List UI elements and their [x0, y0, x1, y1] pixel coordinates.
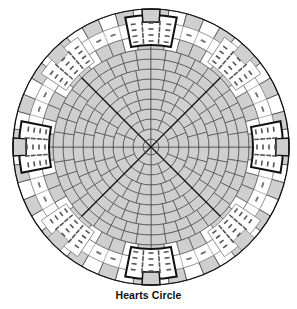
grid-cell — [103, 147, 114, 159]
figure-caption: Hearts Circle — [0, 289, 297, 301]
grid-cell — [137, 224, 151, 235]
grid-cell — [136, 49, 151, 60]
grid-cell — [151, 224, 165, 235]
grid-cell — [138, 79, 151, 90]
grid-cell — [93, 147, 105, 162]
grid-cell — [208, 134, 219, 147]
grid-cell — [151, 204, 164, 215]
grid-cell — [208, 147, 219, 160]
grid-cell — [136, 89, 151, 101]
grid-cell — [73, 147, 84, 162]
grid-cell — [151, 214, 166, 225]
grid-cell — [63, 133, 74, 147]
grid-cell — [188, 135, 199, 147]
grid-cell — [218, 147, 229, 162]
grid-cell — [238, 132, 249, 147]
grid-cell — [151, 49, 166, 60]
grid-cell — [151, 234, 166, 245]
grid-cell — [137, 59, 151, 70]
grid-cell — [83, 147, 94, 160]
grid-cell — [228, 147, 239, 161]
grid-cell — [151, 193, 166, 205]
grid-cell — [136, 69, 151, 80]
grid-cell — [63, 147, 74, 161]
grid-cell — [228, 133, 239, 147]
grid-cell — [53, 132, 64, 147]
grid-cell — [83, 134, 94, 147]
grid-cell — [151, 59, 165, 70]
grid-cell — [151, 79, 164, 90]
hearts-circle-diagram — [0, 0, 297, 290]
grid-cell — [197, 132, 209, 147]
grid-cell — [238, 147, 249, 162]
grid-cell — [138, 204, 151, 215]
grid-cell — [136, 234, 151, 245]
grid-cell — [73, 132, 84, 147]
grid-cell — [218, 132, 229, 147]
grid-cell — [151, 69, 166, 80]
grid-cell — [136, 214, 151, 225]
grid-cell — [139, 99, 151, 110]
grid-cell — [53, 147, 64, 162]
grid-cell — [151, 184, 163, 195]
